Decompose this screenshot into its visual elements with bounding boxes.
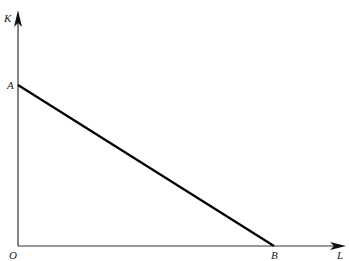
point-A-label: A [6, 79, 14, 91]
y-axis-label: K [3, 12, 12, 24]
line-AB [18, 85, 274, 246]
origin-label: O [9, 249, 17, 261]
budget-line-diagram: K A O B L [0, 0, 349, 261]
point-B-label: B [271, 249, 278, 261]
x-axis-label: L [336, 249, 343, 261]
